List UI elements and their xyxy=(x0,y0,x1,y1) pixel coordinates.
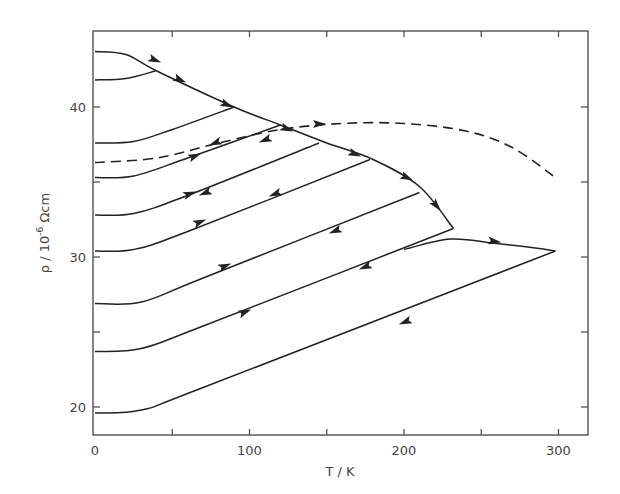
axis-ticks xyxy=(93,31,588,435)
data-curve xyxy=(95,107,234,143)
direction-arrow-icon xyxy=(360,261,380,269)
y-tick-label: 30 xyxy=(69,250,86,265)
data-curve xyxy=(95,52,453,229)
data-curve xyxy=(95,193,419,305)
dashed-curve xyxy=(95,123,555,178)
data-curve xyxy=(404,239,555,251)
data-curve xyxy=(95,251,555,413)
plot-frame xyxy=(93,31,588,435)
data-curve xyxy=(95,143,319,215)
x-axis-label: T / K xyxy=(324,464,355,479)
data-curve xyxy=(95,160,370,252)
y-tick-label: 40 xyxy=(69,100,86,115)
direction-arrow-icon xyxy=(165,73,185,82)
curves xyxy=(95,52,555,414)
x-tick-label: 300 xyxy=(546,443,571,458)
direction-arrow-icon xyxy=(140,54,160,62)
direction-arrow-icon xyxy=(270,122,292,131)
x-tick-label: 100 xyxy=(237,443,262,458)
tick-labels: 0100200300203040 xyxy=(69,100,570,458)
x-tick-label: 0 xyxy=(91,443,99,458)
x-tick-label: 200 xyxy=(392,443,417,458)
data-curve xyxy=(95,71,155,80)
direction-arrow-icon xyxy=(185,220,205,228)
direction-arrow-icon xyxy=(260,134,280,142)
direction-arrow-icon xyxy=(200,187,220,195)
y-axis-label: ρ / 10-6 Ωcm xyxy=(35,193,52,273)
data-curve xyxy=(95,229,453,352)
y-tick-label: 20 xyxy=(69,400,86,415)
resistivity-temperature-chart: 0100200300203040 T / K ρ / 10-6 Ωcm xyxy=(0,0,620,494)
direction-arrow-icon xyxy=(400,316,420,324)
